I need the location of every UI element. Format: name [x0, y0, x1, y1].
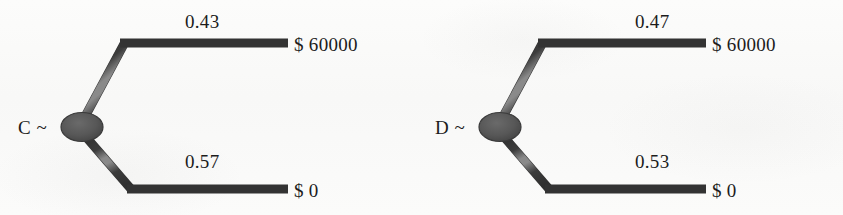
- payoff-label-upper: $ 60000: [712, 35, 776, 54]
- tree-c-graphic: [0, 0, 421, 215]
- chance-node-label-d: D ~: [435, 118, 465, 137]
- chance-node-ellipse: [61, 113, 103, 142]
- payoff-label-lower: $ 0: [294, 181, 319, 200]
- probability-label-upper: 0.43: [185, 12, 219, 31]
- payoff-label-upper: $ 60000: [294, 35, 358, 54]
- chance-node-ellipse: [479, 113, 521, 142]
- probability-label-upper: 0.47: [635, 12, 669, 31]
- payoff-label-lower: $ 0: [712, 181, 737, 200]
- probability-label-lower: 0.57: [185, 152, 219, 171]
- decision-tree-figure: C ~ 0.43 0.57 $ 60000 $ 0: [0, 0, 843, 215]
- chance-node-label-c: C ~: [18, 118, 47, 137]
- lottery-tree-c: C ~ 0.43 0.57 $ 60000 $ 0: [0, 0, 421, 215]
- lottery-tree-d: D ~ 0.47 0.53 $ 60000 $ 0: [422, 0, 843, 215]
- probability-label-lower: 0.53: [635, 152, 669, 171]
- tree-d-graphic: [422, 0, 843, 215]
